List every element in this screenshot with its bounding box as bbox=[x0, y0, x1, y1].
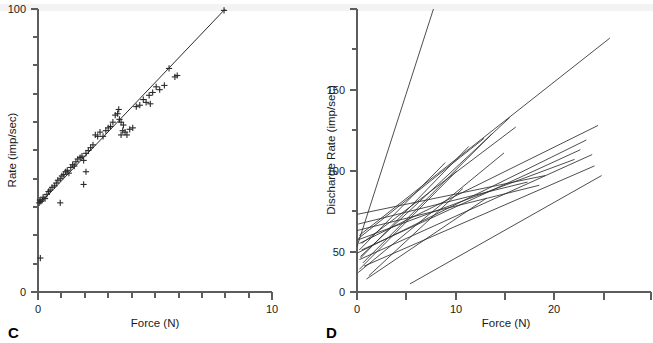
panel-c-x-tick-label-10: 10 bbox=[266, 303, 278, 315]
panel-c-y-tick-label-100: 100 bbox=[8, 3, 26, 15]
panel-d-y-axis-title: Discharge Rate (imp/sec) bbox=[325, 85, 337, 215]
panel-d-scan-band bbox=[320, 4, 653, 11]
panel-d-y-tick-label-50: 50 bbox=[333, 246, 345, 258]
panel-c-scan-band bbox=[0, 4, 320, 11]
panel-d-x-tick-label-20: 20 bbox=[548, 303, 560, 315]
panel-c-x-axis-title: Force (N) bbox=[131, 317, 180, 329]
figure-container: 100 0 0 10 Force (N) Rate (imp/sec) C bbox=[0, 0, 653, 343]
panel-d-x-tick-label-10: 10 bbox=[450, 303, 462, 315]
panel-c-x-tick-label-0: 0 bbox=[35, 303, 41, 315]
panel-d-plot: 150 100 50 0 0 10 20 Force (N) Discharge… bbox=[320, 0, 653, 343]
panel-d: 150 100 50 0 0 10 20 Force (N) Discharge… bbox=[320, 0, 653, 343]
panel-d-label: D bbox=[326, 324, 337, 341]
panel-c-label: C bbox=[8, 324, 19, 341]
panel-c-y-axis-title: Rate (imp/sec) bbox=[6, 112, 18, 187]
panel-d-x-tick-label-0: 0 bbox=[354, 303, 360, 315]
panel-d-y-tick-label-0: 0 bbox=[339, 286, 345, 298]
panel-d-x-axis-title: Force (N) bbox=[482, 317, 531, 329]
panel-c: 100 0 0 10 Force (N) Rate (imp/sec) C bbox=[0, 0, 320, 343]
panel-c-y-tick-label-0: 0 bbox=[20, 286, 26, 298]
panel-c-plot: 100 0 0 10 Force (N) Rate (imp/sec) C bbox=[0, 0, 320, 343]
